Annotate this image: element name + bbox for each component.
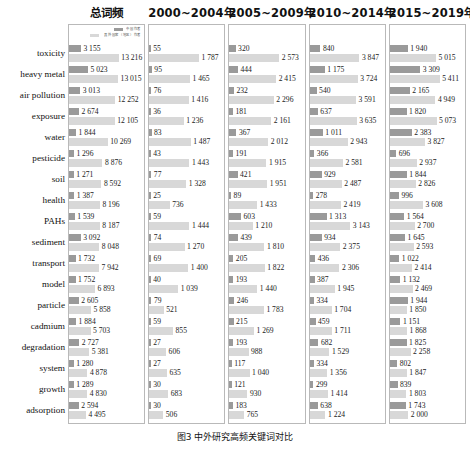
bar-value-label: 79 [154,297,162,304]
bar-value-label: 3 309 [423,66,440,73]
bar-value-label: 278 [316,192,327,199]
bar-value-label: 996 [401,192,412,199]
bar-item: 1 487 [149,137,210,148]
bar-value-label: 36 [153,108,161,115]
bar-value-label: 1 847 [409,369,426,376]
bar-value-label: 2 826 [418,180,435,187]
bar-value-label: 1 884 [79,318,96,325]
bar-series-foreign [390,96,436,104]
bar-value-label: 930 [250,390,261,397]
bar-group: 2991 414 [310,379,385,400]
bar-value-label: 2 161 [274,117,291,124]
bar-item: 3 724 [310,74,378,85]
bar-value-label: 3 608 [426,201,443,208]
bar-value-label: 5 858 [94,306,111,313]
bar-series-cn [310,213,327,221]
bar-series-cn [390,150,396,158]
bar-group: 1 6452 593 [390,232,465,253]
bar-value-label: 1 040 [252,369,269,376]
bar-series-cn [69,150,74,158]
category-label: degradation [22,342,65,352]
bar-series-cn [69,213,75,221]
bar-value-label: 1 825 [409,339,426,346]
bar-value-label: 3 013 [83,87,100,94]
category-label: cadmium [31,321,65,331]
bar-value-label: 1 400 [191,264,208,271]
bar-series-cn [69,87,80,95]
bar-series-foreign [310,180,342,188]
bar-series-cn [310,87,317,95]
bar-value-label: 2 383 [414,129,431,136]
bar-item: 1 847 [390,368,427,379]
bar-group: 9963 608 [390,190,465,211]
bar-item: 6 893 [69,284,115,295]
bar-value-label: 1 440 [260,285,277,292]
bar-value-label: 1 732 [78,255,95,262]
bar-value-label: 205 [236,255,247,262]
bar-series-foreign [69,117,115,125]
bar-item: 5 858 [69,305,111,316]
bar-series-cn [149,108,151,116]
bar-item: 1 328 [149,179,206,190]
bar-series-cn [390,339,407,347]
bar-value-label: 1 224 [328,411,345,418]
bar-group: 691 400 [149,253,224,274]
bar-value-label: 2 943 [350,138,367,145]
bar-group: 1 8845 703 [69,316,144,337]
bar-item: 5 073 [390,116,456,127]
bar-value-label: 1 820 [409,108,426,115]
bar-series-cn [310,255,316,263]
bar-item: 4 495 [69,410,106,421]
bar-value-label: 59 [153,318,161,325]
bar-group: 2 7275 381 [69,337,144,358]
bar-value-label: 1 915 [269,159,286,166]
bar-value-label: 839 [400,381,411,388]
bar-value-label: 1 022 [402,255,419,262]
bar-series-cn [69,66,88,74]
bar-series-foreign [310,306,332,314]
bar-value-label: 1 711 [334,327,351,334]
bar-series-foreign [310,348,330,356]
bar-series-cn [229,360,231,368]
bar-series-foreign [149,369,167,377]
bar-value-label: 89 [234,192,242,199]
bar-series-cn [149,66,152,74]
bar-group: 1 2804 878 [69,358,144,379]
bar-series-cn [149,234,151,242]
bar-group: 1 3133 143 [310,211,385,232]
chart-panel: 中国作者其外国家（地区）作者3 15513 2165 02313 0153 01… [68,24,145,424]
bar-item: 855 [149,326,187,337]
legend-label: 其外国家（地区）作者 [104,33,141,38]
bar-series-cn [229,318,233,326]
bar-series-foreign [149,348,166,356]
bar-value-label: 1 803 [409,390,426,397]
category-label: growth [39,384,65,394]
bar-value-label: 1 951 [270,180,287,187]
bar-group: 6373 635 [310,106,385,127]
bar-value-label: 444 [240,66,251,73]
bar-series-foreign [69,222,100,230]
bar-series-cn [229,297,234,305]
bar-value-label: 30 [153,381,161,388]
bar-series-cn [310,192,314,200]
bar-value-label: 2 727 [82,339,99,346]
bar-value-label: 1 787 [202,54,219,61]
bar-series-foreign [149,306,164,314]
bar-value-label: 2 414 [415,264,432,271]
bar-series-cn [149,192,151,200]
bar-series-foreign [390,54,436,62]
category-label: toxicity [37,48,65,58]
bar-group: 1 8442 826 [390,169,465,190]
bar-item: 1 040 [229,368,269,379]
bar-group: 3672 012 [229,127,304,148]
bar-item: 1 039 [149,284,198,295]
bar-item: 1 224 [310,410,345,421]
bar-item: 13 216 [69,53,142,64]
bar-series-cn [390,129,412,137]
bar-group: 30683 [149,379,224,400]
bar-item: 7 942 [69,263,119,274]
bar-series-cn [310,360,314,368]
bar-series-foreign [310,201,341,209]
bar-item: 1 416 [149,95,208,106]
bar-series-foreign [69,96,115,104]
